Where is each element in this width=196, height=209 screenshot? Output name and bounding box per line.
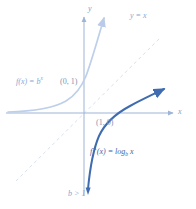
graph-canvas [0,0,196,209]
log-curve-lower-arrow [86,188,91,196]
base-condition-label: b > 1 [68,190,85,198]
identity-line-label: y = x [130,12,147,20]
logarithmic-function-label: f-1(x) = logb x [90,146,134,158]
log-label-arg: x [130,147,134,156]
exponential-label-exponent: x [41,75,43,81]
exponential-function-label: f(x) = bx [16,76,43,86]
math-figure: y x f(x) = bx (0, 1) y = x (1, 0) f-1(x)… [0,0,196,209]
exponential-curve [8,18,104,112]
logarithmic-curve [88,89,164,189]
y-axis-label: y [88,5,92,13]
x-axis-label: x [178,108,182,116]
log-label-mid: (x) = log [97,147,126,156]
point-label-1-0: (1, 0) [96,119,113,127]
point-label-0-1: (0, 1) [60,78,77,86]
exponential-label-base: f(x) = b [16,77,41,86]
log-label-base-subscript: b [125,151,128,157]
